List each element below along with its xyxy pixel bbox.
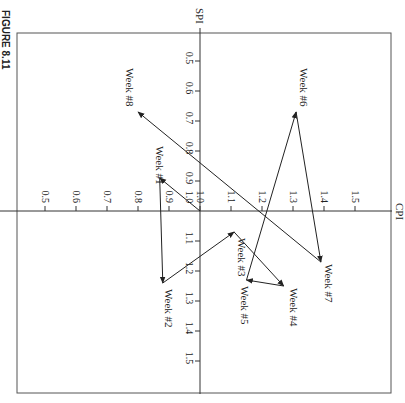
path-segment (138, 112, 321, 262)
week-label: Week #2 (163, 289, 175, 328)
path-segment (163, 232, 234, 283)
cpi-spi-chart: 0.50.60.70.80.91.01.11.21.31.41.50.50.60… (0, 0, 405, 403)
spi-tick-label: 1.1 (184, 232, 195, 245)
spi-tick-label: 1.5 (184, 352, 195, 365)
week-label: Week #5 (239, 286, 251, 325)
cpi-tick-label: 0.5 (40, 191, 51, 204)
spi-tick-label: 1.0 (184, 191, 195, 204)
chart-figure: 0.50.60.70.80.91.01.11.21.31.41.50.50.60… (0, 0, 405, 403)
figure-label: FIGURE 8.11 (0, 10, 11, 70)
cpi-tick-label: 0.9 (164, 191, 175, 204)
week-label: Week #7 (323, 264, 335, 303)
plot-frame (17, 33, 391, 393)
plot-border (17, 33, 391, 393)
path-segment (296, 112, 321, 262)
spi-tick-label: 0.6 (184, 82, 195, 95)
cpi-tick-label: 1.3 (288, 191, 299, 204)
week-label: Week #3 (236, 238, 248, 277)
spi-tick-label: 0.9 (184, 172, 195, 185)
y-axis-label-spi: SPI (194, 8, 206, 24)
cpi-tick-label: 1.5 (350, 191, 361, 204)
cpi-tick-label: 0.6 (71, 191, 82, 204)
x-axis-label-cpi: CPI (394, 203, 405, 220)
week-label: Week #1 (154, 146, 166, 185)
week-label: Week #6 (298, 68, 310, 107)
cpi-tick-label: 1.4 (319, 191, 330, 204)
spi-tick-label: 0.8 (184, 142, 195, 155)
cpi-tick-label: 0.8 (133, 191, 144, 204)
spi-tick-label: 1.4 (184, 322, 195, 335)
path-segment (160, 178, 163, 283)
week-label: Week #4 (288, 288, 300, 327)
axes (0, 28, 392, 394)
cpi-tick-label: 1.2 (257, 191, 268, 204)
spi-tick-label: 0.7 (184, 112, 195, 125)
path-segment (247, 280, 284, 286)
spi-tick-label: 0.5 (184, 52, 195, 65)
cpi-tick-label: 0.7 (102, 191, 113, 204)
cpi-tick-label: 1.0 (195, 191, 206, 204)
week-label: Week #8 (124, 68, 136, 107)
spi-tick-label: 1.3 (184, 292, 195, 305)
